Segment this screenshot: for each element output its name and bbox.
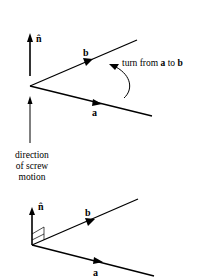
vector-b-label: b	[83, 47, 89, 58]
arrowhead-icon	[109, 64, 119, 70]
arrowhead-icon	[83, 58, 93, 66]
svg-text:direction: direction	[15, 150, 49, 160]
turn-arrow	[109, 64, 130, 98]
vector-a-label: a	[93, 267, 98, 278]
screw-direction-arrow	[28, 96, 33, 143]
vector-a	[30, 86, 152, 116]
vector-b-label: b	[85, 207, 91, 218]
right-angle-marker	[32, 227, 44, 240]
vector-a-label: a	[92, 107, 97, 118]
svg-text:motion: motion	[19, 172, 46, 182]
arrowhead-icon	[29, 207, 35, 215]
normal-label: n̂	[38, 201, 44, 212]
top-diagram: n̂ b a turn from a to b direction of scr…	[15, 33, 183, 182]
arrowhead-icon	[27, 33, 33, 42]
arrowhead-icon	[85, 218, 95, 226]
screw-direction-label: direction of screw motion	[15, 150, 49, 182]
normal-label: n̂	[36, 33, 42, 44]
cross-product-diagram: n̂ b a turn from a to b direction of scr…	[0, 0, 212, 278]
svg-text:of screw: of screw	[16, 161, 49, 171]
bottom-diagram: n̂ b a	[29, 199, 154, 278]
normal-vector-arrow	[27, 33, 33, 76]
arrowhead-icon	[92, 99, 102, 106]
turn-annotation: turn from a to b	[122, 58, 183, 68]
vector-b	[32, 199, 138, 245]
arrowhead-icon	[28, 96, 33, 104]
